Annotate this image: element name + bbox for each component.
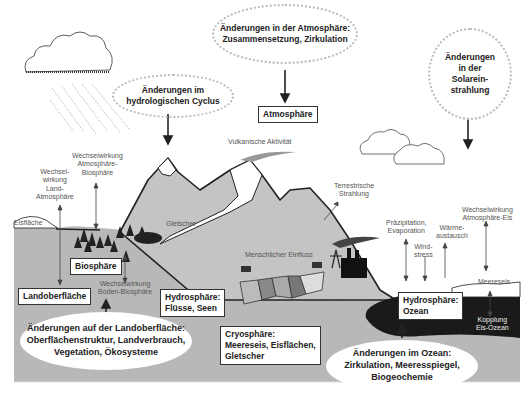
- label-line: Atmosphäre-Eis: [462, 214, 513, 222]
- label-line: wirkung: [36, 176, 74, 184]
- label-line: Boden-Biosphäre: [98, 288, 152, 296]
- label-line: Atmosphäre-: [72, 160, 123, 168]
- label-ww-atm-eis: Wechselwirkung Atmosphäre-Eis: [462, 206, 513, 223]
- clouds-right: [360, 129, 444, 164]
- bubble-text: Änderungen im Ozean:: [353, 348, 452, 360]
- bubble-land-change: Änderungen auf der Landoberfläche: Oberf…: [20, 312, 192, 370]
- label-vulkanisch: Vulkanische Aktivität: [228, 138, 292, 146]
- bubble-ocean-change: Änderungen im Ozean: Zirkulation, Meeres…: [326, 340, 478, 392]
- label-meereseis: Meereseis: [478, 278, 510, 286]
- label-line: Terrestrische: [334, 182, 374, 190]
- label-line: austausch: [436, 232, 468, 240]
- box-text: Hydrosphäre:: [403, 295, 458, 306]
- bubble-text: Vegetation, Ökosysteme: [54, 347, 158, 359]
- bubble-text: Oberflächenstruktur, Landverbrauch,: [27, 335, 186, 347]
- bubble-text: Solarein-: [452, 74, 488, 85]
- box-text: Flüsse, Seen: [165, 303, 220, 314]
- label-line: stress: [414, 251, 433, 259]
- box-text: Meereseis, Eisflächen,: [225, 340, 316, 351]
- label-line: Evaporation: [386, 227, 426, 235]
- label-line: Wechselwirkung: [462, 206, 513, 214]
- bubble-atmosphere-change: Änderungen in der Atmosphäre: Zusammense…: [212, 4, 358, 64]
- box-landoberflaeche: Landoberfläche: [18, 288, 91, 305]
- box-hydrosphaere-fluesse: Hydrosphäre: Flüsse, Seen: [160, 289, 225, 317]
- box-cryosphaere: Cryosphäre: Meereseis, Eisflächen, Glets…: [220, 326, 321, 365]
- box-text: Cryosphäre:: [225, 329, 316, 340]
- box-hydrosphaere-ozean: Hydrosphäre: Ozean: [398, 292, 463, 320]
- bubble-text: Änderungen in der Atmosphäre:: [220, 23, 350, 34]
- cloud-rain: [25, 32, 112, 72]
- bubble-text: Zirkulation, Meeresspiegel,: [344, 360, 460, 372]
- box-biosphaere: Biosphäre: [70, 258, 122, 275]
- bubble-text: Änderungen im: [142, 85, 204, 96]
- label-line: Eis-Ozean: [476, 324, 509, 332]
- label-line: Wechsel-: [36, 168, 74, 176]
- label-praezipitation: Präzipitation, Evaporation: [386, 219, 426, 236]
- bubble-text: in der: [458, 63, 481, 74]
- label-line: Wechselwirkung: [72, 152, 123, 160]
- label-ww-boden-bio: Wechselwirkung Boden-Biosphäre: [98, 280, 152, 297]
- bubble-hydro-cycle-change: Änderungen im hydrologischen Cyclus: [112, 74, 234, 118]
- label-menschlich: Menschlicher Einfluss: [245, 251, 313, 259]
- volcano-smoke: [240, 152, 296, 162]
- bubble-text: Änderungen: [445, 52, 495, 63]
- label-ww-atm-bio: Wechselwirkung Atmosphäre- Biosphäre: [72, 152, 123, 177]
- bubble-text: Biogeochemie: [371, 372, 433, 384]
- label-ww-land-atm: Wechsel- wirkung Land- Atmosphäre: [36, 168, 74, 202]
- bubble-text: hydrologischen Cyclus: [126, 96, 220, 107]
- bubble-solar-change: Änderungen in der Solarein- strahlung: [428, 28, 512, 120]
- label-gletscher: Gletscher: [166, 220, 196, 228]
- label-line: Präzipitation,: [386, 219, 426, 227]
- label-line: Strahlung: [334, 190, 374, 198]
- label-line: Wechselwirkung: [98, 280, 152, 288]
- box-text: Gletscher: [225, 351, 316, 362]
- label-line: Kopplung: [476, 316, 509, 324]
- lake: [134, 232, 162, 244]
- bubble-text: Zusammensetzung, Zirkulation: [222, 34, 347, 45]
- bubble-text: Änderungen auf der Landoberfläche:: [27, 323, 185, 335]
- label-line: Wärme-: [436, 224, 468, 232]
- label-line: Biosphäre: [72, 169, 123, 177]
- box-text: Ozean: [403, 306, 458, 317]
- box-text: Hydrosphäre:: [165, 292, 220, 303]
- bubble-text: strahlung: [451, 85, 490, 96]
- label-line: Land-: [36, 185, 74, 193]
- label-kopplung: Kopplung Eis-Ozean: [476, 316, 509, 333]
- label-terrestrisch: Terrestrische Strahlung: [334, 182, 374, 199]
- label-waerme: Wärme- austausch: [436, 224, 468, 241]
- label-line: Atmosphäre: [36, 193, 74, 201]
- label-line: Wind-: [414, 243, 433, 251]
- label-eisflaeche: Eisfläche: [14, 219, 42, 227]
- label-wind: Wind- stress: [414, 243, 433, 260]
- box-atmosphaere: Atmosphäre: [258, 106, 318, 123]
